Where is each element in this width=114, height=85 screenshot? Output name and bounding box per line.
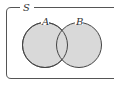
set-b-label: B xyxy=(75,16,83,27)
universe-label: S xyxy=(23,2,30,13)
set-b-circle xyxy=(57,23,102,68)
set-a-label: A xyxy=(41,16,49,27)
venn-diagram: S A B xyxy=(0,0,114,85)
